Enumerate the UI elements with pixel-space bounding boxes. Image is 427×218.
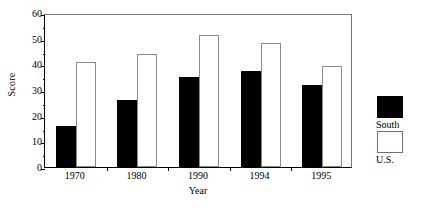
y-axis-major-tick-mark (41, 66, 45, 67)
x-axis-tick-label: 1994 (250, 170, 270, 182)
bar-south (117, 100, 137, 167)
legend-label-us: U.S. (376, 153, 427, 166)
bar-us (261, 43, 281, 167)
bar-group (291, 15, 353, 167)
legend-swatch-south-icon (377, 96, 403, 118)
y-axis-minor-tick-mark (43, 131, 45, 132)
y-axis-minor-tick-mark (43, 28, 45, 29)
y-axis-major-tick-mark (41, 41, 45, 42)
y-axis-title-text: Score (7, 72, 18, 96)
bar-us (137, 54, 157, 167)
y-axis-major-tick-mark (41, 143, 45, 144)
bar-group (45, 15, 107, 167)
x-axis-tick-labels: 19701980199019941995 (44, 170, 352, 184)
bar-groups (45, 15, 351, 167)
y-axis-minor-tick-mark (43, 156, 45, 157)
legend-item-us: U.S. (375, 131, 427, 166)
x-axis-tick-label: 1970 (65, 170, 85, 182)
bar-us (322, 66, 342, 167)
x-axis-tick-label: 1980 (126, 170, 146, 182)
y-axis-tick-label: 0 (18, 163, 42, 173)
bar-us (76, 62, 96, 167)
bar-south (179, 77, 199, 167)
y-axis-minor-tick-mark (43, 79, 45, 80)
y-axis-major-tick-mark (41, 118, 45, 119)
chart-legend: South U.S. (375, 96, 427, 166)
bar-group (230, 15, 292, 167)
plot-area (44, 14, 352, 168)
y-axis-tick-label: 40 (18, 60, 42, 70)
y-axis-tick-label: 20 (18, 112, 42, 122)
legend-item-south: South (375, 96, 427, 131)
x-axis-title: Year (44, 185, 352, 196)
y-axis-major-tick-mark (41, 92, 45, 93)
bar-us (199, 35, 219, 167)
y-axis-tick-label: 30 (18, 86, 42, 96)
y-axis-major-tick-mark (41, 15, 45, 16)
legend-label-south: South (376, 118, 427, 131)
bar-group (107, 15, 169, 167)
y-axis-minor-tick-mark (43, 54, 45, 55)
y-axis-tick-label: 50 (18, 35, 42, 45)
bar-south (241, 71, 261, 167)
bar-chart-figure: Score 0102030405060 19701980199019941995… (0, 0, 427, 218)
y-axis-tick-label: 10 (18, 137, 42, 147)
y-axis-tick-labels: 0102030405060 (18, 0, 42, 168)
bar-south (56, 126, 76, 167)
legend-swatch-us-icon (377, 131, 403, 153)
y-axis-tick-label: 60 (18, 9, 42, 19)
bar-group (168, 15, 230, 167)
x-axis-tick-label: 1995 (311, 170, 331, 182)
y-axis-minor-tick-mark (43, 105, 45, 106)
x-axis-tick-label: 1990 (188, 170, 208, 182)
bar-south (302, 85, 322, 167)
